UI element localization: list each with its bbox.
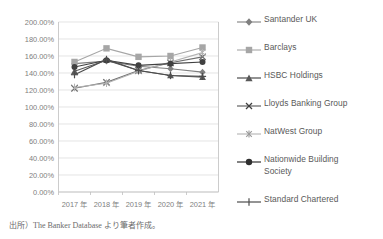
data-point-square (103, 45, 109, 51)
legend-item-nationwide-building-society[interactable]: Nationwide BuildingSociety (236, 154, 383, 194)
data-point-plus (71, 71, 78, 78)
legend-label-hsbc-holdings: HSBC Holdings (262, 70, 323, 82)
legend-label-nationwide-building-society: Nationwide BuildingSociety (262, 154, 339, 177)
y-axis-tick-label: 40.00% (29, 154, 54, 163)
y-axis-tick-label: 180.00% (25, 35, 55, 44)
chart-legend: Santander UK Barclays HSBC Holdings (236, 14, 383, 222)
x-axis-tick-label: 2021 年 (190, 200, 216, 209)
chart-figure: 0.00%20.00%40.00%60.00%80.00%100.00%120.… (0, 0, 383, 239)
legend-label-barclays: Barclays (262, 42, 297, 54)
y-axis-tick-label: 160.00% (25, 52, 55, 61)
legend-item-hsbc-holdings[interactable]: HSBC Holdings (236, 70, 383, 98)
y-axis-tick-label: 0.00% (33, 188, 54, 197)
legend-marker-plus-icon (236, 196, 262, 208)
x-axis-tick-label: 2019 年 (126, 200, 152, 209)
y-axis-tick-label: 200.00% (25, 18, 55, 27)
y-axis-tick-label: 20.00% (29, 171, 54, 180)
legend-item-barclays[interactable]: Barclays (236, 42, 383, 70)
y-axis-tick-label: 60.00% (29, 137, 54, 146)
y-axis-tick-label: 100.00% (25, 103, 55, 112)
y-axis-tick-label: 140.00% (25, 69, 55, 78)
legend-marker-diamond-icon (236, 16, 262, 28)
data-point-circle (168, 61, 174, 67)
legend-label-line1: Nationwide Building (264, 154, 339, 164)
legend-marker-circle-icon (236, 156, 262, 168)
legend-item-standard-chartered[interactable]: Standard Chartered (236, 194, 383, 222)
x-axis-tick-label: 2020 年 (158, 200, 184, 209)
legend-item-santander-uk[interactable]: Santander UK (236, 14, 383, 42)
source-caption: 出所）The Banker Database より筆者作成。 (9, 219, 160, 230)
legend-marker-asterisk-icon (236, 128, 262, 140)
legend-label-standard-chartered: Standard Chartered (262, 194, 338, 206)
legend-label-natwest-group: NatWest Group (262, 126, 322, 138)
legend-item-natwest-group[interactable]: NatWest Group (236, 126, 383, 154)
legend-label-line2: Society (264, 166, 292, 176)
data-point-circle (200, 59, 206, 65)
data-point-asterisk (200, 49, 206, 57)
legend-label-lloyds-banking-group: Lloyds Banking Group (262, 98, 347, 110)
legend-item-lloyds-banking-group[interactable]: Lloyds Banking Group (236, 98, 383, 126)
data-point-square (135, 54, 141, 60)
y-axis-tick-label: 120.00% (25, 86, 55, 95)
x-axis-tick-label: 2018 年 (94, 200, 120, 209)
x-axis-tick-label: 2017 年 (62, 200, 88, 209)
legend-marker-square-icon (236, 44, 262, 56)
y-axis-tick-label: 80.00% (29, 120, 54, 129)
data-point-circle (72, 64, 78, 70)
legend-label-santander-uk: Santander UK (262, 14, 317, 26)
legend-marker-triangle-icon (236, 72, 262, 84)
legend-marker-x-icon (236, 100, 262, 112)
